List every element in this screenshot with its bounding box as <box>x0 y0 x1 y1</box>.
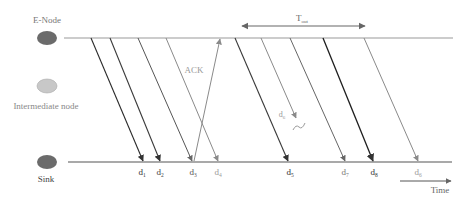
packet-d8-label: d8 <box>370 167 378 178</box>
sink-icon <box>37 155 57 169</box>
sink-label: Sink <box>38 174 55 184</box>
enode-label: E-Node <box>33 15 61 25</box>
packet-d5-label: d5 <box>286 167 294 178</box>
packet-d3-arrow <box>138 38 192 161</box>
packet-d6-lost-label: d6 <box>279 110 286 120</box>
ack-arrow <box>194 39 220 161</box>
packet-d7-label: d7 <box>341 167 349 178</box>
time-axis-label: Time <box>431 185 450 195</box>
packet-loss-squiggle-icon <box>293 123 305 130</box>
timeout-label: Tout <box>296 13 309 24</box>
packet-d5-arrow <box>235 38 288 161</box>
packet-d6-label: d6 <box>414 167 422 178</box>
packet-d8-arrow <box>323 38 373 161</box>
intermediate-node-icon <box>37 79 57 93</box>
packet-d7-arrow <box>290 38 345 161</box>
packet-d6-retransmit-arrow <box>364 38 418 161</box>
packet-d3-label: d3 <box>189 167 197 178</box>
packet-d2-label: d2 <box>156 167 164 178</box>
packet-d4-label: d4 <box>214 167 222 178</box>
intermediate-node-label: Intermediate node <box>13 101 78 111</box>
sequence-diagram: E-Node Intermediate node Sink Tout d6 AC… <box>0 0 471 203</box>
packet-d4-arrow <box>166 38 218 161</box>
packet-d6-lost-arrow <box>261 38 296 118</box>
packet-d1-label: d1 <box>138 167 146 178</box>
enode-icon <box>37 31 57 45</box>
ack-label: ACK <box>184 65 204 75</box>
